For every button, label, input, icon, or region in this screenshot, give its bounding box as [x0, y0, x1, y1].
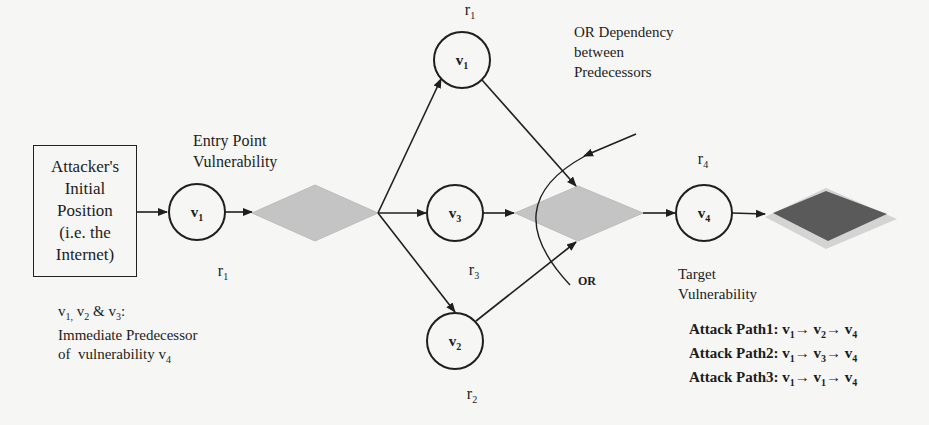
- edge-v1-top-to-or: [482, 80, 576, 186]
- node-v1-top-label: v1: [456, 52, 469, 71]
- condition-diamond-left: [252, 185, 378, 241]
- annotation-line: between: [574, 42, 674, 62]
- annotation-line: Vulnerability: [193, 151, 277, 172]
- start-box-line: Internet): [51, 244, 119, 266]
- or-label: OR: [578, 272, 596, 290]
- resource-r2: r2: [467, 385, 477, 405]
- annotation-line: Predecessors: [574, 62, 674, 82]
- edge-v4-to-goal: [732, 213, 765, 214]
- predecessor-note: v1, v2 & v3: Immediate Predecessor of vu…: [58, 302, 198, 369]
- node-v1-entry-label: v1: [191, 204, 204, 223]
- goal-diamond: [773, 191, 887, 241]
- predecessor-note-line3: of vulnerability v4: [58, 345, 198, 369]
- attacker-initial-position-box: Attacker's Initial Position (i.e. the In…: [33, 145, 137, 277]
- annotation-line: Vulnerability: [678, 284, 757, 304]
- node-v3-label: v3: [449, 205, 462, 224]
- node-v2-label: v2: [449, 333, 462, 352]
- or-dependency-pointer: [584, 134, 636, 156]
- start-box-line: Position: [51, 200, 119, 222]
- node-v4-label: v4: [698, 205, 711, 224]
- predecessor-note-line1: v1, v2 & v3:: [58, 302, 198, 326]
- annotation-line: Entry Point: [193, 130, 277, 151]
- resource-r1-bottom: r1: [218, 262, 228, 282]
- resource-r3: r3: [469, 261, 479, 281]
- attack-path-3: Attack Path3: v1→ v1→ v4: [689, 368, 857, 392]
- attack-path-1: Attack Path1: v1→ v2→ v4: [689, 320, 857, 344]
- annotation-line: Target: [678, 264, 757, 284]
- edge-condition-to-v1-top: [378, 79, 441, 213]
- edge-condition-to-v2: [378, 213, 455, 312]
- condition-diamond-right: [515, 186, 643, 241]
- or-dependency-annotation: OR Dependency between Predecessors: [574, 22, 674, 82]
- start-box-line: Attacker's: [51, 156, 119, 178]
- attack-path-2: Attack Path2: v1→ v3→ v4: [689, 344, 857, 368]
- annotation-line: OR Dependency: [574, 22, 674, 42]
- entry-point-annotation: Entry Point Vulnerability: [193, 130, 277, 172]
- target-vulnerability-annotation: Target Vulnerability: [678, 264, 757, 304]
- start-box-line: Initial: [51, 178, 119, 200]
- start-box-line: (i.e. the: [51, 222, 119, 244]
- resource-r4: r4: [698, 150, 708, 170]
- attack-paths-list: Attack Path1: v1→ v2→ v4 Attack Path2: v…: [689, 320, 857, 392]
- predecessor-note-line2: Immediate Predecessor: [58, 326, 198, 345]
- edge-v2-to-or: [476, 242, 576, 321]
- resource-r1-top: r1: [465, 1, 475, 21]
